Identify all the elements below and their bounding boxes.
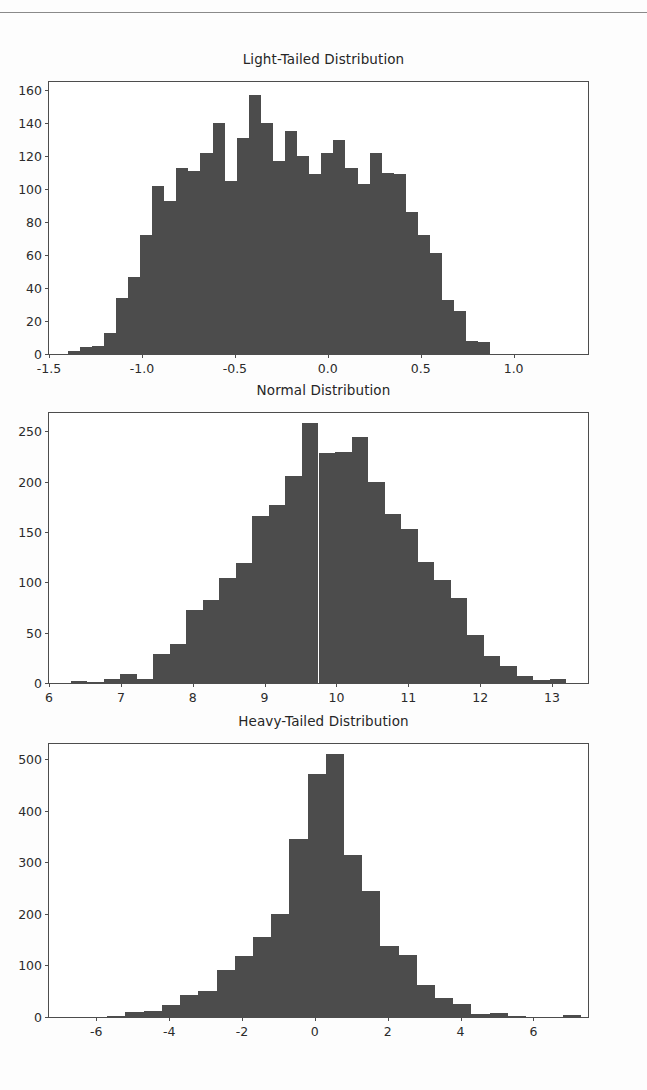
- histogram-bar: [170, 644, 187, 683]
- histogram-bar: [297, 156, 309, 354]
- x-axis-tick: [328, 354, 329, 358]
- y-axis-tick-label: 120: [18, 149, 42, 164]
- histogram-bar: [435, 998, 453, 1017]
- x-axis-tick: [388, 1017, 389, 1021]
- x-axis-tick: [193, 683, 194, 687]
- histogram-bar: [385, 514, 402, 683]
- histogram-bar: [517, 676, 534, 683]
- histogram-bar: [273, 161, 285, 354]
- x-axis-tick: [121, 683, 122, 687]
- chart-title-heavy-tailed: Heavy-Tailed Distribution: [0, 713, 647, 729]
- histogram-bar: [180, 995, 198, 1017]
- y-axis-tick: [45, 862, 49, 863]
- x-axis-tick: [169, 1017, 170, 1021]
- chart-title-normal: Normal Distribution: [0, 382, 647, 398]
- y-axis-tick-label: 0: [34, 1010, 42, 1025]
- y-axis-tick: [45, 633, 49, 634]
- histogram-bar: [104, 333, 116, 354]
- histogram-bar: [200, 153, 212, 354]
- histogram-bar: [153, 654, 170, 683]
- histogram-bar: [508, 1016, 526, 1017]
- histogram-bar: [217, 970, 235, 1017]
- histogram-bar: [417, 985, 435, 1017]
- y-axis-tick-label: 200: [18, 906, 42, 921]
- histogram-bar: [302, 423, 319, 683]
- histogram-bar: [453, 1004, 471, 1017]
- histogram-bar: [269, 505, 286, 683]
- y-axis-tick-label: 0: [34, 676, 42, 691]
- y-axis-tick-label: 80: [26, 215, 42, 230]
- plot-axes-normal: 050100150200250678910111213: [48, 412, 589, 684]
- histogram-bar: [87, 682, 104, 683]
- x-axis-tick: [265, 683, 266, 687]
- histogram-bar: [144, 1011, 162, 1017]
- histogram-bar: [176, 168, 188, 354]
- x-axis-tick: [514, 354, 515, 358]
- y-axis-tick: [45, 288, 49, 289]
- plot-axes-heavy-tailed: 0100200300400500-6-4-20246: [48, 743, 589, 1018]
- y-axis-tick-label: 100: [18, 575, 42, 590]
- histogram-bar: [271, 914, 289, 1017]
- x-axis-tick-label: 6: [45, 690, 53, 705]
- plot-area-heavy-tailed: [49, 744, 588, 1017]
- x-axis-tick-label: 11: [400, 690, 416, 705]
- histogram-bar: [382, 173, 394, 354]
- histogram-bar: [225, 181, 237, 354]
- y-axis-tick-label: 200: [18, 474, 42, 489]
- subplot-heavy-tailed: Heavy-Tailed Distribution 01002003004005…: [0, 704, 647, 1044]
- y-axis-tick: [45, 255, 49, 256]
- y-axis-tick-label: 50: [26, 625, 42, 640]
- x-axis-tick: [315, 1017, 316, 1021]
- histogram-bar: [116, 298, 128, 354]
- histogram-bar: [137, 679, 154, 683]
- histogram-bar: [152, 186, 164, 354]
- y-axis-tick: [45, 321, 49, 322]
- histogram-bar: [309, 174, 321, 354]
- y-axis-tick-label: 300: [18, 855, 42, 870]
- x-axis-tick-label: 4: [457, 1024, 465, 1039]
- y-axis-tick: [45, 811, 49, 812]
- y-axis-tick-label: 100: [18, 182, 42, 197]
- histogram-bar: [89, 1017, 107, 1018]
- page-top-rule: [0, 12, 647, 13]
- y-axis-tick-label: 60: [26, 248, 42, 263]
- y-axis-tick-label: 150: [18, 524, 42, 539]
- histogram-bar: [326, 754, 344, 1017]
- y-axis-tick: [45, 90, 49, 91]
- histogram-bar: [252, 516, 269, 683]
- x-axis-tick: [96, 1017, 97, 1021]
- histogram-bar: [162, 1005, 180, 1017]
- histogram-bar: [394, 174, 406, 354]
- histogram-bar: [253, 937, 271, 1017]
- x-axis-tick: [235, 354, 236, 358]
- histogram-bar: [319, 453, 336, 683]
- x-axis-tick: [336, 683, 337, 687]
- y-axis-tick-label: 160: [18, 83, 42, 98]
- histogram-bar: [188, 171, 200, 354]
- x-axis-tick: [552, 683, 553, 687]
- histogram-bar: [107, 1016, 125, 1017]
- histogram-bar: [164, 201, 176, 354]
- histogram-bar: [544, 1017, 562, 1018]
- histogram-bar: [358, 184, 370, 354]
- y-axis-tick: [45, 914, 49, 915]
- x-axis-tick: [49, 354, 50, 358]
- histogram-bar: [120, 674, 137, 683]
- y-axis-tick: [45, 431, 49, 432]
- histogram-bar: [430, 253, 442, 354]
- y-axis-tick-label: 40: [26, 281, 42, 296]
- histogram-bar: [490, 1013, 508, 1017]
- x-axis-tick-label: 8: [189, 690, 197, 705]
- histogram-bar: [235, 956, 253, 1017]
- y-axis-tick: [45, 123, 49, 124]
- histogram-bar: [406, 212, 418, 354]
- plot-area-normal: [49, 413, 588, 683]
- histogram-bar: [500, 666, 517, 683]
- histogram-bar: [186, 610, 203, 683]
- histogram-bar: [533, 680, 550, 683]
- histogram-bar: [198, 991, 216, 1017]
- histogram-bar: [92, 346, 104, 354]
- plot-axes-light-tailed: 020406080100120140160-1.5-1.0-0.50.00.51…: [48, 81, 589, 355]
- figure-canvas: Light-Tailed Distribution 02040608010012…: [0, 0, 647, 1090]
- histogram-bar: [466, 341, 478, 354]
